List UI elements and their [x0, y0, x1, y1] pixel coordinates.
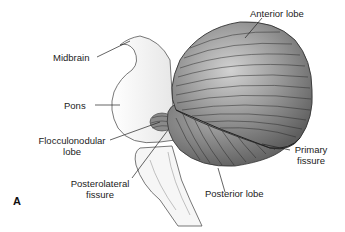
label-flocculonodular-lobe: Flocculonodular lobe	[32, 135, 112, 157]
panel-label: A	[13, 195, 21, 207]
label-posterolateral-line1: Posterolateral	[64, 178, 136, 189]
label-anterior-lobe: Anterior lobe	[250, 8, 304, 19]
label-primary-fissure: Primary fissure	[290, 144, 332, 166]
label-primary-line1: Primary	[290, 144, 332, 155]
label-posterolateral-fissure: Posterolateral fissure	[64, 178, 136, 200]
anatomy-illustration	[0, 0, 345, 232]
cerebellum-diagram: Midbrain Pons Flocculonodular lobe Poste…	[0, 0, 345, 232]
label-primary-line2: fissure	[290, 155, 332, 166]
label-posterior-lobe: Posterior lobe	[205, 188, 264, 199]
label-posterolateral-line2: fissure	[64, 189, 136, 200]
label-flocculonodular-line1: Flocculonodular	[32, 135, 112, 146]
label-pons: Pons	[64, 100, 86, 111]
label-midbrain: Midbrain	[53, 52, 89, 63]
label-flocculonodular-line2: lobe	[32, 146, 112, 157]
